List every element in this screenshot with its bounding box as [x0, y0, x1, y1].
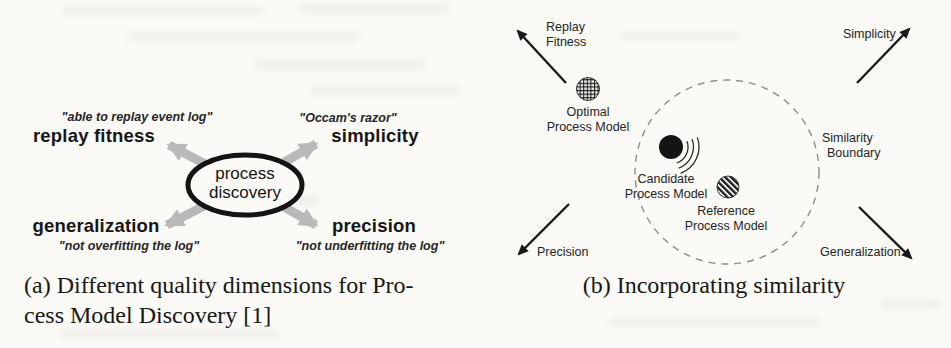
candidate-process-model-label: Candidate Process Model — [625, 172, 708, 201]
axis-label-generalization: Generalization — [820, 245, 901, 260]
process-discovery-label: process discovery — [209, 164, 281, 202]
similarity-boundary-label: Similarity Boundary — [822, 131, 881, 160]
axis-label-simplicity: Simplicity — [843, 27, 896, 42]
reference-line2: Process Model — [685, 219, 768, 234]
reference-line1: Reference — [685, 204, 768, 219]
similarity-boundary-line2: Boundary — [822, 146, 881, 161]
label-precision: precision — [332, 215, 416, 237]
replay-fitness-line1: Replay — [546, 20, 586, 35]
label-generalization: generalization — [32, 215, 159, 237]
optimal-process-model-dot — [577, 78, 600, 101]
quote-generalization: "not overfitting the log" — [59, 239, 199, 253]
reference-process-model-label: Reference Process Model — [685, 204, 768, 233]
candidate-line1: Candidate — [625, 172, 708, 187]
caption-b: (b) Incorporating similarity — [583, 270, 846, 300]
caption-a-line1: (a) Different quality dimensions for Pro… — [24, 270, 413, 300]
reference-process-model-dot — [717, 176, 739, 198]
optimal-line2: Process Model — [547, 120, 630, 135]
candidate-line2: Process Model — [625, 187, 708, 202]
axis-label-precision: Precision — [537, 245, 588, 260]
replay-fitness-line2: Fitness — [546, 35, 586, 50]
figure-scan: "able to replay event log" replay fitnes… — [0, 0, 951, 348]
axis-label-replay-fitness: Replay Fitness — [546, 20, 586, 49]
quote-replay-fitness: "able to replay event log" — [62, 110, 213, 124]
optimal-process-model-label: Optimal Process Model — [547, 105, 630, 134]
candidate-process-model-dot — [659, 135, 683, 159]
optimal-line1: Optimal — [547, 105, 630, 120]
process-discovery-line2: discovery — [209, 183, 281, 202]
label-simplicity: simplicity — [331, 125, 418, 147]
process-discovery-line1: process — [209, 164, 281, 183]
quote-simplicity: "Occam's razor" — [299, 111, 397, 125]
caption-a: (a) Different quality dimensions for Pro… — [24, 270, 413, 330]
label-replay-fitness: replay fitness — [33, 125, 155, 147]
caption-a-line2: cess Model Discovery [1] — [24, 300, 413, 330]
quote-precision: "not underfitting the log" — [296, 239, 445, 253]
similarity-boundary-line1: Similarity — [822, 131, 881, 146]
